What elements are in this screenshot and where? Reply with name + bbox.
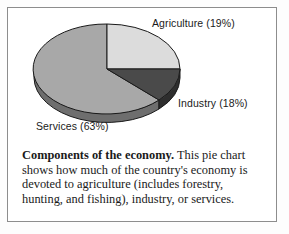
pie-label-industry: Industry (18%)	[178, 97, 248, 109]
pie-chart-svg	[24, 14, 194, 134]
pie-chart-area: Agriculture (19%) Industry (18%) Service…	[0, 0, 289, 146]
pie-slice-agriculture	[107, 24, 180, 69]
pie-label-services: Services (63%)	[36, 120, 109, 132]
caption-title: Components of the economy.	[22, 148, 174, 162]
pie-label-agriculture: Agriculture (19%)	[152, 17, 235, 29]
figure-root: Agriculture (19%) Industry (18%) Service…	[0, 0, 289, 234]
figure-caption: Components of the economy. This pie char…	[22, 148, 266, 206]
